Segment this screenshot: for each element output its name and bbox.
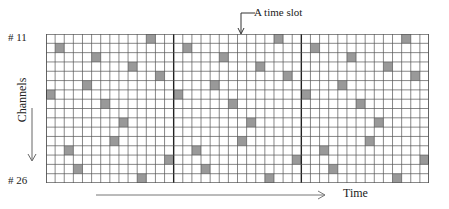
occupied-slot bbox=[420, 155, 429, 164]
occupied-slot bbox=[55, 43, 64, 52]
time-axis-label: Time bbox=[343, 186, 368, 201]
occupied-slot bbox=[301, 90, 310, 99]
occupied-slot bbox=[210, 81, 219, 90]
occupied-slot bbox=[329, 164, 338, 173]
occupied-slot bbox=[192, 146, 201, 155]
occupied-slot bbox=[365, 136, 374, 145]
occupied-slot bbox=[338, 81, 347, 90]
occupied-slot bbox=[238, 136, 247, 145]
occupied-slot bbox=[219, 53, 228, 62]
occupied-slot bbox=[201, 164, 210, 173]
occupied-slot bbox=[101, 99, 110, 108]
time-slot-annotation: A time slot bbox=[254, 6, 302, 18]
occupied-slot bbox=[347, 53, 356, 62]
occupied-slot bbox=[46, 90, 55, 99]
occupied-slot bbox=[183, 43, 192, 52]
occupied-slot bbox=[310, 43, 319, 52]
occupied-slot bbox=[155, 71, 164, 80]
time-arrow-icon bbox=[96, 189, 328, 201]
channels-arrow-icon bbox=[26, 108, 38, 164]
occupied-slot bbox=[402, 34, 411, 43]
occupied-slot bbox=[247, 118, 256, 127]
occupied-slot bbox=[383, 62, 392, 71]
occupied-slot bbox=[411, 71, 420, 80]
top-channel-label: # 11 bbox=[8, 31, 27, 43]
occupied-slot bbox=[110, 136, 119, 145]
occupied-slot bbox=[128, 62, 137, 71]
occupied-slot bbox=[73, 164, 82, 173]
occupied-slot bbox=[92, 53, 101, 62]
occupied-slot bbox=[174, 90, 183, 99]
occupied-slot bbox=[137, 174, 146, 183]
occupied-slot bbox=[274, 34, 283, 43]
occupied-slot bbox=[119, 118, 128, 127]
occupied-slot bbox=[374, 118, 383, 127]
occupied-slot bbox=[228, 99, 237, 108]
occupied-slot bbox=[283, 71, 292, 80]
occupied-slot bbox=[292, 155, 301, 164]
occupied-slot bbox=[320, 146, 329, 155]
occupied-slot bbox=[393, 174, 402, 183]
occupied-slot bbox=[356, 99, 365, 108]
channel-time-grid bbox=[46, 34, 429, 183]
occupied-slot bbox=[265, 174, 274, 183]
occupied-slot bbox=[256, 62, 265, 71]
time-slot-arrow-icon bbox=[236, 7, 256, 35]
occupied-slot bbox=[82, 81, 91, 90]
occupied-slot bbox=[146, 34, 155, 43]
occupied-slot bbox=[165, 155, 174, 164]
occupied-slot bbox=[64, 146, 73, 155]
bottom-channel-label: # 26 bbox=[8, 174, 27, 186]
